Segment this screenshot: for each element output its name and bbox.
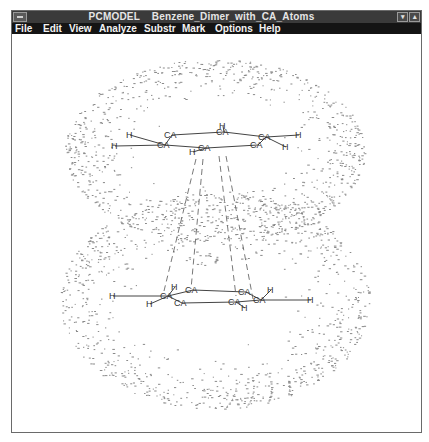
atom-labels: CACACACACACAHHHHHHCACACACACACAHHHHHH: [109, 121, 314, 313]
molecule-canvas[interactable]: CACACACACACAHHHHHHCACACACACACAHHHHHH: [12, 34, 421, 432]
carbon-atom-label[interactable]: CA: [164, 130, 177, 140]
hydrogen-atom-label[interactable]: H: [241, 303, 248, 313]
hydrogen-atom-label[interactable]: H: [282, 142, 289, 152]
hydrogen-atom-label[interactable]: H: [295, 130, 302, 140]
menu-view[interactable]: View: [69, 23, 92, 34]
menu-file[interactable]: File: [15, 23, 32, 34]
hydrogen-atom-label[interactable]: H: [307, 295, 314, 305]
hydrogen-atom-label[interactable]: H: [126, 130, 133, 140]
menu-mark[interactable]: Mark: [182, 23, 205, 34]
menu-options[interactable]: Options: [215, 23, 253, 34]
carbon-atom-label[interactable]: CA: [228, 297, 241, 307]
title-bar[interactable]: PCMODEL Benzene_Dimer_with_CA_Atoms ▾ ▴: [12, 11, 421, 23]
minimize-button[interactable]: ▾: [397, 12, 408, 22]
hydrogen-atom-label[interactable]: H: [267, 285, 274, 295]
hydrogen-atom-label[interactable]: H: [111, 141, 118, 151]
molecule-drawing[interactable]: CACACACACACAHHHHHHCACACACACACAHHHHHH: [12, 34, 423, 434]
carbon-atom-label[interactable]: CA: [157, 140, 170, 150]
menu-substr[interactable]: Substr: [144, 23, 176, 34]
menu-analyze[interactable]: Analyze: [99, 23, 137, 34]
hydrogen-atom-label[interactable]: H: [146, 299, 153, 309]
hydrogen-atom-label[interactable]: H: [189, 147, 196, 157]
menu-bar: File Edit View Analyze Substr Mark Optio…: [12, 23, 421, 34]
carbon-atom-label[interactable]: CA: [174, 298, 187, 308]
pcmodel-window: PCMODEL Benzene_Dimer_with_CA_Atoms ▾ ▴ …: [11, 10, 422, 433]
maximize-button[interactable]: ▴: [409, 12, 420, 22]
hydrogen-atom-label[interactable]: H: [109, 291, 116, 301]
carbon-atom-label[interactable]: CA: [185, 285, 198, 295]
bond-lines: [113, 126, 311, 308]
menu-help[interactable]: Help: [259, 23, 281, 34]
hydrogen-atom-label[interactable]: H: [219, 121, 226, 131]
carbon-atom-label[interactable]: CA: [250, 140, 263, 150]
carbon-atom-label[interactable]: CA: [160, 291, 173, 301]
carbon-atom-label[interactable]: CA: [253, 295, 266, 305]
carbon-atom-label[interactable]: CA: [238, 287, 251, 297]
hydrogen-atom-label[interactable]: H: [171, 282, 178, 292]
menu-edit[interactable]: Edit: [43, 23, 62, 34]
electron-density-dots: [61, 60, 371, 409]
carbon-atom-label[interactable]: CA: [198, 143, 211, 153]
window-title: PCMODEL Benzene_Dimer_with_CA_Atoms: [12, 11, 391, 23]
